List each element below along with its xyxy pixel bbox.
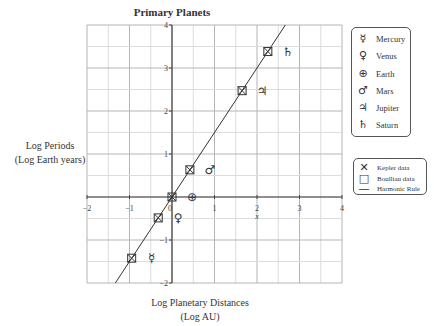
legend-item-harmonic-rule: — Harmonic Rule bbox=[356, 182, 420, 195]
x-tick-label: −2 bbox=[83, 204, 92, 213]
legend-item-mercury: ☿ Mercury bbox=[355, 32, 405, 45]
venus-icon: ♀ bbox=[355, 49, 371, 62]
mars-icon: ♂ bbox=[355, 84, 371, 97]
mars-icon: ♂ bbox=[205, 163, 216, 177]
x-tick-label: −1 bbox=[125, 204, 134, 213]
legend-item-saturn: ♄ Saturn bbox=[355, 118, 398, 131]
legend-item-mars: ♂ Mars bbox=[355, 84, 393, 97]
y-axis-label-line1: Log Periods bbox=[2, 139, 98, 153]
y-axis-label: Log Periods (Log Earth years) bbox=[2, 139, 98, 167]
y-axis-label-line2: (Log Earth years) bbox=[2, 153, 98, 167]
legend-label: Venus bbox=[376, 51, 397, 61]
legend-item-earth: ⊕ Earth bbox=[355, 67, 394, 80]
saturn-icon: ♄ bbox=[355, 118, 371, 131]
y-tick-label: 1 bbox=[164, 150, 168, 159]
planet-legend: ☿ Mercury ♀ Venus ⊕ Earth ♂ Mars ♃ Jupit… bbox=[351, 27, 411, 137]
y-tick-label: −2 bbox=[159, 279, 168, 288]
y-tick-label: 2 bbox=[164, 107, 168, 116]
y-tick-label: 4 bbox=[164, 21, 168, 30]
earth-icon: ⊕ bbox=[355, 67, 371, 80]
x-tick-label: 0 bbox=[168, 204, 172, 213]
legend-item-venus: ♀ Venus bbox=[355, 49, 397, 62]
legend-label: Saturn bbox=[376, 120, 398, 130]
mercury-icon: ☿ bbox=[148, 251, 155, 265]
legend-item-jupiter: ♃ Jupiter bbox=[355, 101, 399, 114]
x-axis-label-line2: (Log AU) bbox=[140, 310, 260, 324]
legend-label: Jupiter bbox=[376, 103, 399, 113]
mercury-icon: ☿ bbox=[355, 32, 371, 45]
x-axis-label: Log Planetary Distances (Log AU) bbox=[140, 296, 260, 324]
legend-label: Earth bbox=[376, 69, 394, 79]
legend-label: Kepler data bbox=[377, 164, 409, 172]
y-tick-label: 3 bbox=[164, 64, 168, 73]
x-tick-label: 4 bbox=[340, 204, 344, 213]
line-marker-icon: — bbox=[356, 182, 372, 195]
x-axis-label-line1: Log Planetary Distances bbox=[140, 296, 260, 310]
venus-icon: ♀ bbox=[174, 211, 183, 225]
y-tick-label: −1 bbox=[159, 236, 168, 245]
legend-label: Mercury bbox=[376, 34, 405, 44]
earth-icon: ⊕ bbox=[187, 190, 197, 204]
x-variable-label: x bbox=[254, 212, 259, 221]
jupiter-icon: ♃ bbox=[355, 101, 371, 114]
saturn-icon: ♄ bbox=[282, 45, 293, 59]
jupiter-icon: ♃ bbox=[257, 84, 268, 98]
data-legend: ✕ Kepler data □ Boulliau data — Harmonic… bbox=[353, 158, 427, 195]
legend-label: Mars bbox=[376, 86, 393, 96]
x-tick-label: 1 bbox=[213, 204, 217, 213]
legend-label: Harmonic Rule bbox=[377, 185, 420, 193]
x-tick-label: 3 bbox=[298, 204, 302, 213]
